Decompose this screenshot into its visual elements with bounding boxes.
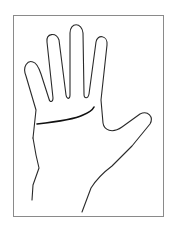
wrist-left-outline [32, 138, 39, 200]
hand-drawing [0, 0, 178, 230]
palm-crease-line [37, 107, 94, 124]
pinky-finger-outline [25, 25, 152, 212]
